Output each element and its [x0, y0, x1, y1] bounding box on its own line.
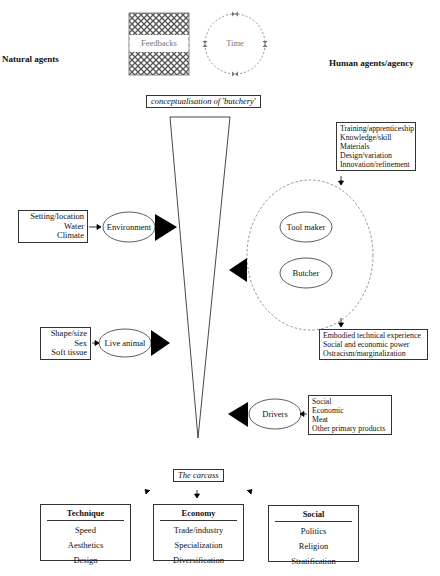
environment-label: Environment: [103, 222, 155, 232]
diagram-canvas: [0, 0, 440, 576]
divider: [275, 521, 352, 522]
social-title: Social: [269, 506, 358, 521]
economy-box: Economy Trade/industry Specialization Di…: [153, 504, 244, 561]
outcome-item: Speed: [41, 523, 130, 538]
factor-item: Climate: [22, 231, 84, 241]
human-agency-arrowhead-icon: [229, 258, 247, 282]
drivers-arrowhead-icon: [228, 402, 248, 427]
input-item: Materials: [340, 142, 412, 151]
technique-box: Technique Speed Aesthetics Design: [40, 504, 131, 561]
conceptualisation-label: conceptualisation of 'butchery': [146, 95, 261, 108]
divider: [47, 520, 124, 521]
economy-title: Economy: [154, 505, 243, 520]
outcome-item: Politics: [269, 524, 358, 539]
divider: [160, 520, 237, 521]
outcome-item: Aesthetics: [41, 538, 130, 553]
outcome-item: Religion: [269, 539, 358, 554]
human-outputs-box: Embodied technical experience Social and…: [319, 329, 428, 360]
output-item: Ostracism/marginalization: [323, 349, 424, 358]
input-item: Training/apprenticeship: [340, 124, 412, 133]
conceptual-funnel: [170, 117, 230, 438]
drivers-factors-box: Social Economic Meat Other primary produ…: [308, 395, 392, 435]
environment-arrowhead-icon: [155, 214, 177, 241]
butcher-label: Butcher: [280, 268, 332, 278]
social-box: Social Politics Religion Stratification: [268, 505, 359, 562]
tool-maker-label: Tool maker: [280, 222, 332, 232]
human-agents-heading: Human agents/agency: [329, 58, 414, 68]
human-inputs-box: Training/apprenticeship Knowledge/skill …: [336, 122, 416, 171]
output-item: Embodied technical experience: [323, 331, 424, 340]
driver-item: Meat: [312, 415, 388, 424]
driver-item: Social: [312, 397, 388, 406]
outcome-item: Diversification: [154, 553, 243, 568]
factor-item: Soft tissue: [44, 348, 87, 358]
human-agency-circle: [247, 180, 373, 330]
outcome-item: Trade/industry: [154, 523, 243, 538]
live-animal-factors-box: Shape/size Sex Soft tissue: [40, 327, 91, 360]
natural-agents-heading: Natural agents: [2, 54, 59, 64]
outcome-item: Stratification: [269, 554, 358, 569]
time-label: Time: [205, 38, 265, 48]
input-item: Innovation/refinement: [340, 160, 412, 169]
outcome-item: Specialization: [154, 538, 243, 553]
driver-item: Economic: [312, 406, 388, 415]
feedbacks-label: Feedbacks: [129, 38, 189, 48]
environment-factors-box: Setting/location Water Climate: [18, 210, 88, 243]
input-item: Design/variation: [340, 151, 412, 160]
carcass-label: The carcass: [173, 469, 224, 482]
outcome-item: Design: [41, 553, 130, 568]
live-animal-label: Live animal: [99, 338, 151, 348]
drivers-label: Drivers: [249, 409, 301, 419]
input-item: Knowledge/skill: [340, 133, 412, 142]
technique-title: Technique: [41, 505, 130, 520]
output-item: Social and economic power: [323, 340, 424, 349]
live-animal-arrowhead-icon: [151, 330, 170, 356]
driver-item: Other primary products: [312, 424, 388, 433]
